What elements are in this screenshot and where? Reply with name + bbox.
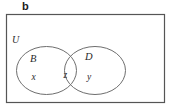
set-label-b: B — [30, 53, 37, 64]
set-d-ellipse — [65, 47, 126, 95]
universe-label: U — [12, 34, 20, 45]
venn-diagram-figure: b U B D x z y — [0, 0, 173, 112]
set-label-d: D — [84, 51, 93, 62]
element-label-z: z — [63, 70, 68, 80]
set-b-ellipse — [17, 47, 77, 95]
venn-diagram-canvas: U B D x z y — [0, 0, 173, 112]
element-label-x: x — [31, 72, 37, 82]
element-label-y: y — [86, 72, 92, 82]
